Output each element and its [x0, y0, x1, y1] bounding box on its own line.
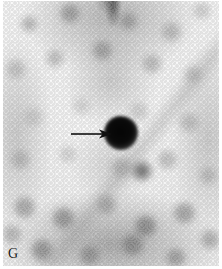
scintigram-image	[3, 0, 219, 266]
scintigram-figure: G	[0, 0, 222, 269]
margin-right	[219, 0, 222, 269]
margin-top	[0, 0, 222, 1]
margin-left	[0, 0, 3, 269]
panel-label: G	[8, 247, 18, 261]
focal-hot-nodule	[104, 116, 138, 150]
secondary-uptake-focus	[130, 160, 154, 182]
